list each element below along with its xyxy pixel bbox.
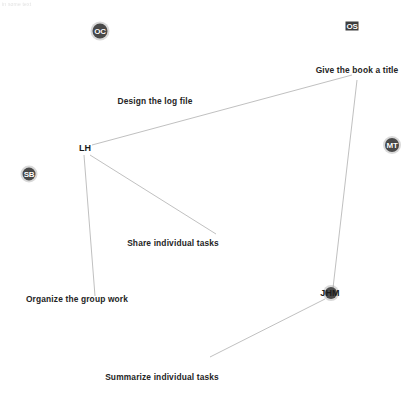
graph-edge-JHM-to-summarize-tasks	[210, 299, 325, 357]
edge-layer	[0, 0, 413, 396]
graph-edge-give-title-to-JHM	[333, 80, 357, 288]
diagram-canvas: in some text OCOSSBMT LHJHMGive the book…	[0, 0, 413, 396]
node-marker-label-mt: MT	[386, 141, 397, 150]
graph-edge-LH-to-give-title	[92, 75, 352, 145]
node-marker-label-os: OS	[346, 22, 357, 31]
task-label-give-title[interactable]: Give the book a title	[316, 65, 399, 75]
graph-edge-LH-to-organize-group	[84, 155, 95, 296]
task-label-share-tasks[interactable]: Share individual tasks	[127, 238, 219, 248]
node-marker-label-oc: OC	[94, 27, 106, 36]
vertex-initials-lh[interactable]: LH	[79, 143, 91, 153]
vertex-initials-jhm[interactable]: JHM	[320, 288, 339, 298]
task-label-summarize-tasks[interactable]: Summarize individual tasks	[105, 372, 219, 382]
graph-edge-LH-to-share-tasks	[90, 155, 216, 234]
task-label-design-log[interactable]: Design the log file	[118, 96, 193, 106]
task-label-organize-group[interactable]: Organize the group work	[26, 294, 128, 304]
node-marker-label-sb: SB	[24, 170, 35, 179]
